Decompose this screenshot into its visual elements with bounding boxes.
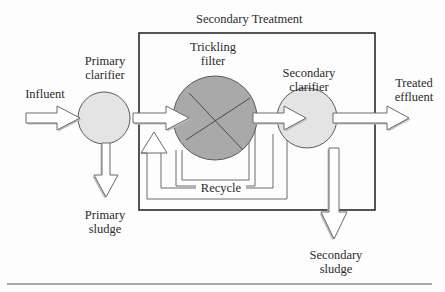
trickling-filter-label-line1: Trickling (183, 40, 243, 54)
trickling-filter-label: Trickling filter (183, 40, 243, 68)
primary-clarifier-label: Primary clarifier (80, 54, 130, 82)
primary-sludge-label-line1: Primary (82, 208, 128, 222)
primary-sludge-arrow (93, 143, 119, 199)
treated-effluent-arrow (333, 106, 411, 132)
primary-clarifier-label-line1: Primary (80, 54, 130, 68)
wastewater-treatment-diagram: Secondary Treatment Trickling filter Pri… (0, 0, 445, 292)
recycle-up-arrow (141, 132, 167, 153)
secondary-sludge-label: Secondary sludge (305, 248, 367, 276)
treated-effluent-label-line1: Treated (386, 76, 442, 90)
secondary-sludge-label-line1: Secondary (305, 248, 367, 262)
influent-label: Influent (22, 87, 68, 101)
treated-effluent-label-line2: effluent (386, 90, 442, 104)
primary-clarifier-circle (78, 92, 130, 144)
secondary-sludge-label-line2: sludge (305, 262, 367, 276)
trickling-filter-label-line2: filter (183, 54, 243, 68)
primary-sludge-label-line2: sludge (82, 222, 128, 236)
treated-effluent-label: Treated effluent (386, 76, 442, 104)
secondary-treatment-title: Secondary Treatment (196, 12, 303, 26)
influent-arrow (26, 106, 82, 132)
secondary-sludge-arrow (320, 148, 348, 241)
primary-clarifier-label-line2: clarifier (80, 68, 130, 82)
secondary-clarifier-label-line1: Secondary (277, 66, 341, 80)
primary-sludge-label: Primary sludge (82, 208, 128, 236)
secondary-clarifier-label-line2: clarifier (277, 80, 341, 94)
recycle-label: Recycle (196, 181, 246, 195)
secondary-clarifier-label: Secondary clarifier (277, 66, 341, 94)
